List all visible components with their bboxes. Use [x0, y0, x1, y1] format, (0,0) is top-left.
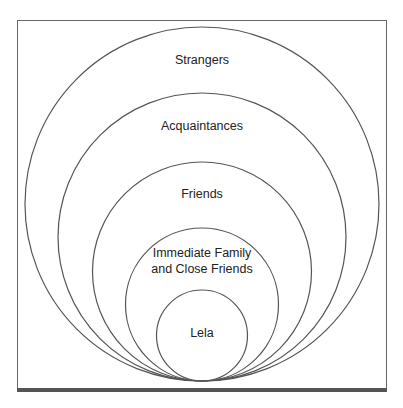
label-friends: Friends	[102, 187, 302, 202]
base-bar	[17, 388, 387, 392]
label-close-friends: and Close Friends	[102, 262, 302, 277]
label-lela: Lela	[102, 326, 302, 341]
label-strangers: Strangers	[102, 53, 302, 68]
label-immediate-family: Immediate Family	[102, 246, 302, 261]
label-acquaintances: Acquaintances	[102, 119, 302, 134]
